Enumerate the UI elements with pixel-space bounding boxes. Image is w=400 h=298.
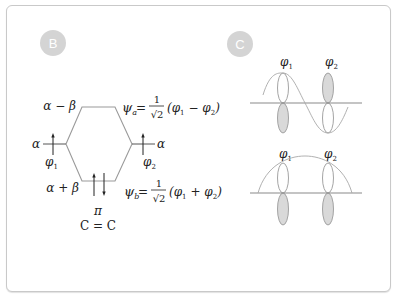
phi2-lower-lobe-shaded [323, 193, 334, 225]
antibonding-orbital-diagram: φ1 φ2 [250, 55, 362, 133]
svg-text:1: 1 [156, 178, 162, 189]
energy-level-hexagon [66, 107, 132, 181]
phi1-upper-lobe [278, 73, 289, 103]
bottom-phi1-label: φ1 [279, 147, 292, 163]
badge-b-label: B [49, 36, 58, 51]
svg-text:√2: √2 [151, 109, 164, 120]
svg-text:=: = [138, 185, 148, 199]
left-orbital-label: φ1 [45, 155, 58, 171]
cc-double-bond-label: C = C [80, 219, 116, 233]
badge-c-label: C [235, 37, 244, 52]
svg-text:(φ1 − φ2): (φ1 − φ2) [167, 101, 220, 117]
psi-b-equation: ψb = 1 √2 (φ1 + φ2) [124, 178, 222, 204]
phi2-lower-lobe [323, 103, 334, 133]
bonding-energy-label: α + β [46, 181, 79, 195]
phi2-upper-lobe [323, 163, 334, 193]
panel-b: B α φ1 α φ2 α − β α + β ψa = [32, 30, 222, 233]
svg-text:√2: √2 [153, 193, 166, 204]
phi1-lower-lobe-shaded [278, 193, 289, 225]
left-electron-arrowhead [51, 133, 54, 138]
svg-text:=: = [136, 101, 146, 115]
top-phi2-label: φ2 [325, 55, 338, 71]
phi2-upper-lobe-shaded [323, 73, 334, 103]
bonding-down-arrowhead [102, 192, 105, 197]
svg-text:ψa: ψa [122, 100, 137, 117]
psi-a-equation: ψa = 1 √2 (φ1 − φ2) [122, 94, 220, 120]
bonding-up-arrowhead [92, 173, 95, 178]
right-alpha-label: α [157, 137, 165, 151]
right-electron-arrowhead [141, 133, 144, 138]
panel-c: C φ1 φ2 φ1 φ2 [227, 31, 362, 225]
left-alpha-label: α [32, 137, 40, 151]
bonding-wave-arc [258, 156, 352, 193]
right-orbital-label: φ2 [143, 155, 156, 171]
pi-bond-label: π [93, 204, 103, 218]
top-phi1-label: φ1 [280, 55, 293, 71]
phi1-lower-lobe-shaded [278, 103, 289, 133]
bonding-orbital-diagram: φ1 φ2 [250, 147, 362, 225]
svg-text:1: 1 [154, 94, 160, 105]
diagram-canvas: B α φ1 α φ2 α − β α + β ψa = [0, 0, 400, 298]
phi1-upper-lobe [278, 163, 289, 193]
svg-text:(φ1 + φ2): (φ1 + φ2) [169, 185, 222, 201]
antibonding-energy-label: α − β [43, 99, 76, 113]
